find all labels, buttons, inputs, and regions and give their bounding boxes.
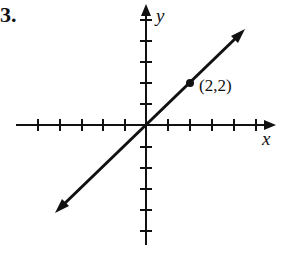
graph-figure: 3. (2,2) y x <box>0 0 287 259</box>
coordinate-plane: (2,2) y x <box>0 0 287 259</box>
point-2-2 <box>186 79 194 87</box>
y-axis-arrow-icon <box>141 4 151 16</box>
point-label: (2,2) <box>199 76 232 95</box>
y-axis-label: y <box>154 5 165 26</box>
x-axis-label: x <box>261 128 271 149</box>
